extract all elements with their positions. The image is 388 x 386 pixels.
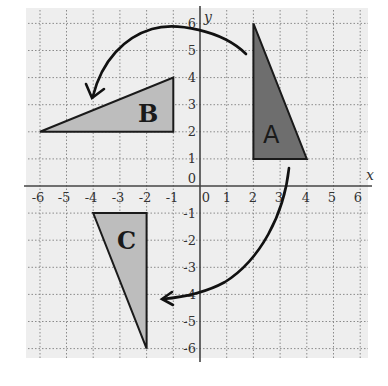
x-tick: 0 [202, 190, 210, 205]
y-tick: 2 [188, 124, 196, 139]
coordinate-plane-diagram: x y -6 -5 -4 -3 -2 -1 0 1 2 3 4 5 6 6 5 … [0, 0, 388, 386]
y-tick: -1 [183, 206, 196, 221]
x-tick: 1 [223, 190, 231, 205]
x-tick: -1 [166, 190, 179, 205]
x-tick: 2 [249, 190, 257, 205]
y-tick: 5 [188, 43, 196, 58]
x-tick: -2 [139, 190, 152, 205]
triangle-a-label: A [263, 121, 280, 149]
x-tick: 4 [302, 190, 310, 205]
y-tick: -2 [183, 233, 196, 248]
y-tick: 3 [188, 97, 196, 112]
x-tick: -6 [32, 190, 45, 205]
x-tick: 5 [328, 190, 336, 205]
triangle-c-label: C [117, 226, 136, 255]
y-tick: -3 [183, 260, 196, 275]
x-tick: -5 [58, 190, 71, 205]
y-tick: 1 [188, 151, 196, 166]
triangle-b-label: B [138, 99, 158, 128]
x-tick: 6 [354, 190, 362, 205]
x-tick: -4 [85, 190, 98, 205]
y-tick: 0 [188, 171, 196, 186]
grid-background [26, 8, 368, 358]
y-tick: -5 [183, 314, 196, 329]
x-tick: -3 [112, 190, 125, 205]
x-axis-label: x [366, 167, 374, 183]
y-tick: -6 [183, 341, 196, 356]
y-axis-label: y [203, 9, 213, 25]
y-tick: 4 [188, 70, 196, 85]
